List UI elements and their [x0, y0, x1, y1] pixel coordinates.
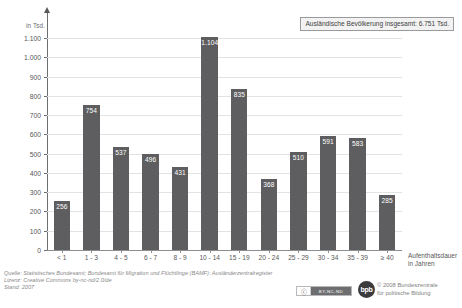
x-axis-tick	[358, 250, 359, 253]
y-axis-tick	[44, 57, 47, 58]
y-axis-tick-label: 700	[30, 112, 41, 119]
y-axis-tick-label: 0	[37, 247, 41, 254]
bar: 256	[54, 201, 70, 250]
footer-status: Stand: 2007	[4, 284, 272, 291]
bar-value-label: 591	[322, 138, 333, 145]
creative-commons-badge-icon: ⓒ BY-NC-ND	[296, 286, 352, 296]
footer-notes: Quelle: Statistisches Bundesamt; Bundesa…	[4, 270, 272, 292]
x-axis-tick-label: 4 - 5	[114, 254, 127, 261]
bpb-copyright-line2: für politische Bildung	[377, 290, 438, 297]
y-axis-tick-label: 900	[30, 73, 41, 80]
bar: 510	[290, 152, 306, 250]
y-axis-tick-label: 500	[30, 150, 41, 157]
y-axis-tick	[44, 173, 47, 174]
bar: 754	[83, 105, 99, 250]
y-axis-tick-label: 1.100	[24, 35, 41, 42]
y-axis-arrow-icon	[44, 7, 50, 13]
gridline	[47, 134, 402, 135]
bar: 1.104	[201, 37, 217, 250]
y-axis-tick-label: 800	[30, 92, 41, 99]
x-axis-tick	[62, 250, 63, 253]
y-axis-tick-label: 400	[30, 169, 41, 176]
bar: 591	[320, 136, 336, 250]
cc-symbol: ⓒ	[297, 287, 311, 295]
bar-value-label: 583	[352, 140, 363, 147]
x-axis-tick	[121, 250, 122, 253]
bar: 285	[379, 195, 395, 250]
x-axis-tick-label: 35 - 39	[347, 254, 368, 261]
x-axis-tick	[151, 250, 152, 253]
plot-inner: 01002003004005006007008009001.0001.10025…	[47, 38, 402, 250]
chart-container: in Tsd. Ausländische Bevölkerung insgesa…	[0, 0, 462, 308]
x-axis-tick-label: 8 - 9	[174, 254, 187, 261]
y-axis-tick-label: 600	[30, 131, 41, 138]
x-axis-tick	[387, 250, 388, 253]
gridline	[47, 38, 402, 39]
x-axis-tick	[298, 250, 299, 253]
bpb-copyright: © 2008 Bundeszentrale für politische Bil…	[377, 282, 438, 297]
bar-value-label: 835	[234, 91, 245, 98]
x-axis-title: Aufenthaltsdauer in Jahren	[408, 252, 457, 268]
y-axis-tick-label: 300	[30, 189, 41, 196]
bar: 537	[113, 147, 129, 250]
bar: 496	[142, 154, 158, 250]
gridline	[47, 115, 402, 116]
x-axis-tick	[210, 250, 211, 253]
y-axis-tick-label: 1.000	[24, 54, 41, 61]
y-axis-tick	[44, 77, 47, 78]
gridline	[47, 96, 402, 97]
y-axis-tick	[44, 154, 47, 155]
x-axis-tick-label: < 1	[57, 254, 66, 261]
x-axis-tick	[91, 250, 92, 253]
x-axis-tick-label: ≥ 40	[381, 254, 394, 261]
y-axis-tick	[44, 192, 47, 193]
x-axis-tick	[180, 250, 181, 253]
bar-value-label: 285	[382, 197, 393, 204]
bar: 583	[349, 138, 365, 250]
y-axis-tick	[44, 96, 47, 97]
x-axis-title-line1: Aufenthaltsdauer	[408, 252, 457, 260]
x-axis-tick-label: 15 - 19	[229, 254, 250, 261]
bar-value-label: 1.104	[201, 39, 218, 46]
bar-value-label: 496	[145, 156, 156, 163]
bar-value-label: 510	[293, 154, 304, 161]
bpb-mark-icon: bpb	[358, 281, 375, 298]
x-axis-title-line2: in Jahren	[408, 260, 457, 268]
bar-value-label: 754	[86, 107, 97, 114]
footer-source: Quelle: Statistisches Bundesamt; Bundesa…	[4, 270, 272, 277]
gridline	[47, 77, 402, 78]
bar-value-label: 431	[174, 169, 185, 176]
y-axis-tick	[44, 231, 47, 232]
bar: 368	[261, 179, 277, 250]
y-axis-tick-label: 100	[30, 227, 41, 234]
bar: 835	[231, 89, 247, 250]
plot-area: 01002003004005006007008009001.0001.10025…	[47, 12, 402, 250]
bar: 431	[172, 167, 188, 250]
y-axis-tick	[44, 211, 47, 212]
x-axis-tick-label: 30 - 34	[318, 254, 339, 261]
y-axis-tick	[44, 115, 47, 116]
y-axis-tick-label: 200	[30, 208, 41, 215]
x-axis-line	[47, 250, 402, 251]
y-axis-tick	[44, 38, 47, 39]
y-axis-tick	[44, 134, 47, 135]
y-axis-title: in Tsd.	[26, 22, 45, 29]
bar-value-label: 256	[56, 203, 67, 210]
bpb-logo: bpb © 2008 Bundeszentrale für politische…	[358, 281, 438, 298]
gridline	[47, 57, 402, 58]
x-axis-tick	[328, 250, 329, 253]
cc-label: BY-NC-ND	[311, 287, 351, 295]
x-axis-tick-label: 1 - 3	[85, 254, 98, 261]
x-axis-tick-label: 6 - 7	[144, 254, 157, 261]
x-axis-tick-label: 20 - 24	[259, 254, 280, 261]
bar-value-label: 368	[263, 181, 274, 188]
x-axis-tick	[269, 250, 270, 253]
bpb-copyright-line1: © 2008 Bundeszentrale	[377, 282, 438, 289]
bar-value-label: 537	[115, 149, 126, 156]
x-axis-tick-label: 10 - 14	[199, 254, 220, 261]
x-axis-tick-label: 25 - 29	[288, 254, 309, 261]
x-axis-tick	[239, 250, 240, 253]
footer-license: Lizenz: Creative Commons by-nc-nd/2.0/de	[4, 277, 272, 284]
